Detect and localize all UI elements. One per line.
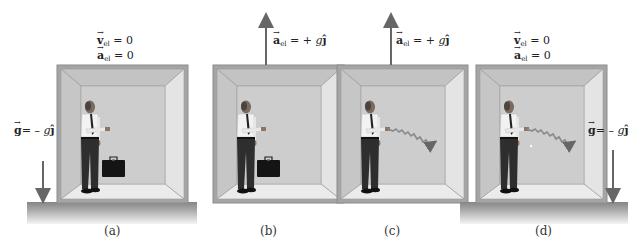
acceleration-equation-d: ael = 0 [514, 49, 551, 66]
panel-d [460, 65, 628, 224]
ground [460, 202, 628, 224]
ball [530, 145, 532, 147]
acceleration-equation-a: ael = 0 [97, 49, 134, 66]
gravity-equation-a: g= – gĵ [14, 124, 54, 137]
panel-a [27, 65, 197, 224]
ground [27, 202, 197, 224]
caption-c: (c) [384, 224, 400, 238]
elevator-cab [337, 65, 468, 203]
gravity-equation-d: g= – gĵ [588, 124, 628, 137]
briefcase [257, 157, 280, 177]
caption-b: (b) [260, 224, 277, 238]
acceleration-equation-b: ael = + gĵ [273, 34, 327, 51]
briefcase [102, 157, 125, 177]
acceleration-equation-c: ael = + gĵ [396, 34, 450, 51]
elevator-cab [213, 65, 344, 203]
caption-d: (d) [535, 224, 552, 238]
caption-a: (a) [104, 224, 121, 238]
elevator-cab [57, 65, 188, 203]
